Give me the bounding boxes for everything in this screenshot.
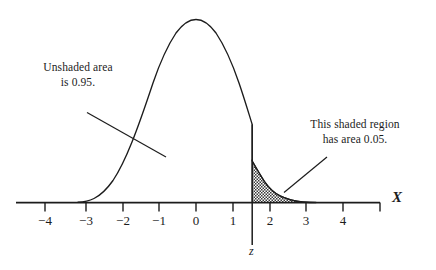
shaded-region-annotation: This shaded region has area 0.05.: [286, 117, 424, 147]
shaded-region-annotation-line1: This shaded region: [286, 117, 424, 132]
x-tick-label-minus1: −1: [147, 213, 171, 229]
x-tick-label-1: 1: [221, 213, 245, 229]
unshaded-area-annotation: Unshaded area is 0.95.: [26, 60, 130, 90]
x-axis-variable-label: X: [392, 189, 402, 206]
unshaded-leader-line: [87, 113, 166, 158]
x-tick-label-minus3: −3: [74, 213, 98, 229]
shaded-region-annotation-line2: has area 0.05.: [286, 132, 424, 147]
x-tick-label-2: 2: [258, 213, 282, 229]
unshaded-area-annotation-line1: Unshaded area: [26, 60, 130, 75]
normal-curve: [78, 20, 316, 203]
x-tick-label-0: 0: [184, 213, 208, 229]
z-marker-label: z: [249, 244, 254, 259]
shaded-leader-line: [284, 157, 327, 193]
x-tick-label-minus4: −4: [33, 213, 57, 229]
x-tick-label-3: 3: [294, 213, 318, 229]
x-tick-label-4: 4: [331, 213, 355, 229]
unshaded-area-annotation-line2: is 0.95.: [26, 75, 130, 90]
x-tick-label-minus2: −2: [111, 213, 135, 229]
x-axis-ticks: [45, 203, 380, 212]
